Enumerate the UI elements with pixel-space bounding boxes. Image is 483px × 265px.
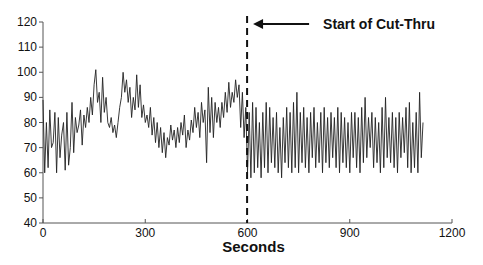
y-tick-label: 110: [18, 40, 37, 54]
annotation-label: Start of Cut-Thru: [323, 16, 435, 32]
x-tick-label: 900: [340, 226, 360, 240]
line-chart: 405060708090100110120 03006009001200 Sta…: [0, 0, 483, 265]
x-axis: 03006009001200: [40, 219, 466, 240]
arrow-head-icon: [253, 19, 263, 29]
y-tick-label: 40: [24, 216, 38, 230]
y-tick-label: 90: [24, 90, 38, 104]
y-axis: 405060708090100110120: [17, 15, 43, 230]
y-tick-label: 60: [24, 166, 38, 180]
x-tick-label: 300: [135, 226, 155, 240]
x-tick-label: 0: [40, 226, 47, 240]
y-tick-label: 50: [24, 191, 38, 205]
x-tick-label: 1200: [439, 226, 466, 240]
y-tick-label: 120: [17, 15, 37, 29]
data-series-line: [43, 70, 423, 178]
annotation-arrow: [253, 19, 309, 29]
y-tick-label: 100: [17, 65, 37, 79]
y-tick-label: 80: [24, 116, 38, 130]
y-tick-label: 70: [24, 141, 38, 155]
x-axis-title: Seconds: [222, 238, 285, 255]
